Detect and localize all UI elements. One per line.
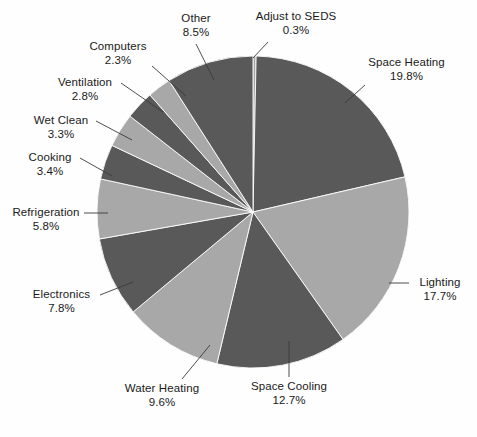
- slice-label-electronics-name: Electronics: [25, 288, 98, 302]
- slice-label-computers: Computers 2.3%: [84, 40, 152, 67]
- slice-label-computers-pct: 2.3%: [84, 54, 152, 68]
- slice-label-water-heating-pct: 9.6%: [114, 396, 210, 410]
- slice-label-space-cooling-pct: 12.7%: [241, 394, 337, 408]
- slice-label-cooking: Cooking 3.4%: [22, 151, 78, 178]
- slice-label-water-heating-name: Water Heating: [114, 382, 210, 396]
- slice-label-ventilation-pct: 2.8%: [50, 90, 120, 104]
- slice-label-refrigeration-pct: 5.8%: [8, 220, 84, 234]
- slice-label-cooking-name: Cooking: [22, 151, 78, 165]
- slice-label-refrigeration-name: Refrigeration: [8, 206, 84, 220]
- slice-label-ventilation-name: Ventilation: [50, 76, 120, 90]
- slice-label-adjust-to-seds-name: Adjust to SEDS: [241, 10, 351, 24]
- pie-chart-figure: Other 8.5% Adjust to SEDS 0.3% Space Hea…: [0, 0, 477, 437]
- slice-label-ventilation: Ventilation 2.8%: [50, 76, 120, 103]
- slice-label-refrigeration: Refrigeration 5.8%: [8, 206, 84, 233]
- slice-label-wet-clean: Wet Clean 3.3%: [28, 114, 94, 141]
- slice-label-electronics-pct: 7.8%: [25, 302, 98, 316]
- slice-label-water-heating: Water Heating 9.6%: [114, 382, 210, 409]
- slice-label-computers-name: Computers: [84, 40, 152, 54]
- slice-label-space-cooling: Space Cooling 12.7%: [241, 380, 337, 407]
- slice-label-other: Other 8.5%: [163, 12, 229, 39]
- slice-label-space-heating-name: Space Heating: [358, 56, 455, 70]
- pie-slice-group: [97, 56, 409, 368]
- slice-label-adjust-to-seds-pct: 0.3%: [241, 24, 351, 38]
- slice-label-adjust-to-seds: Adjust to SEDS 0.3%: [241, 10, 351, 37]
- leader-line-adjust-to-seds: [253, 42, 268, 58]
- slice-label-wet-clean-name: Wet Clean: [28, 114, 94, 128]
- slice-label-wet-clean-pct: 3.3%: [28, 128, 94, 142]
- slice-label-space-cooling-name: Space Cooling: [241, 380, 337, 394]
- slice-label-space-heating: Space Heating 19.8%: [358, 56, 455, 83]
- slice-label-lighting-pct: 17.7%: [412, 290, 468, 304]
- slice-label-lighting-name: Lighting: [412, 276, 468, 290]
- slice-label-lighting: Lighting 17.7%: [412, 276, 468, 303]
- slice-label-other-pct: 8.5%: [163, 26, 229, 40]
- slice-label-other-name: Other: [163, 12, 229, 26]
- slice-label-electronics: Electronics 7.8%: [25, 288, 98, 315]
- slice-label-cooking-pct: 3.4%: [22, 165, 78, 179]
- slice-label-space-heating-pct: 19.8%: [358, 70, 455, 84]
